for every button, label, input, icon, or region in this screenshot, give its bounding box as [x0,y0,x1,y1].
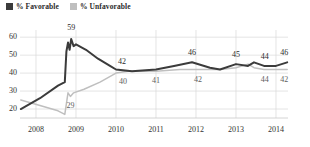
legend-swatch-favorable-icon [6,3,13,10]
legend-item-unfavorable[interactable]: % Unfavorable [70,3,131,11]
x-tick-label-2011: 2011 [148,126,164,134]
line-chart: % Favorable % Unfavorable 2030405060 594… [0,0,310,147]
legend-label-favorable: % Favorable [16,3,59,11]
plot-svg [20,30,288,118]
y-tick-label-40: 40 [9,69,17,77]
x-tick-label-2012: 2012 [188,126,204,134]
x-axis: 2008200920102011201220132014 [20,126,288,140]
plot-area [20,30,288,118]
series-line-unfavorable [21,64,287,114]
y-tick-label-60: 60 [9,33,17,41]
x-tick-label-2009: 2009 [68,126,84,134]
x-tick-label-2014: 2014 [268,126,284,134]
y-axis: 2030405060 [0,30,20,118]
x-tick-label-2008: 2008 [28,126,44,134]
y-tick-label-20: 20 [9,105,17,113]
legend-swatch-unfavorable-icon [70,3,77,10]
legend-item-favorable[interactable]: % Favorable [6,3,59,11]
chart-legend: % Favorable % Unfavorable [6,3,131,11]
y-tick-label-30: 30 [9,87,17,95]
series-line-favorable [21,39,287,109]
x-tick-label-2013: 2013 [228,126,244,134]
legend-label-unfavorable: % Unfavorable [80,3,131,11]
x-tick-label-2010: 2010 [108,126,124,134]
y-tick-label-50: 50 [9,51,17,59]
